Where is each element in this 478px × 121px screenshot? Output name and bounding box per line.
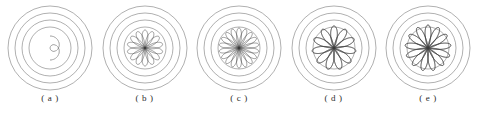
panel-c-canvas [193, 0, 285, 95]
panel-caption: ( b ) [136, 93, 154, 104]
panel-a: ( a ) [4, 0, 96, 121]
panel-b-canvas [99, 0, 191, 95]
rose-curve [50, 36, 59, 60]
panel-caption: ( a ) [41, 93, 59, 104]
rose-curve [405, 25, 451, 70]
panel-a-canvas [4, 0, 96, 95]
panel-c: ( c ) [193, 0, 285, 121]
rose-curve [219, 28, 258, 68]
rose-curve [127, 30, 162, 66]
panel-caption: ( d ) [325, 93, 343, 104]
panel-caption: ( e ) [419, 93, 437, 104]
figure-panel-row: ( a )( b )( c )( d )( e ) [0, 0, 478, 121]
panel-e-canvas [382, 0, 474, 95]
panel-d: ( d ) [288, 0, 380, 121]
panel-caption: ( c ) [230, 93, 248, 104]
panel-b: ( b ) [99, 0, 191, 121]
panel-e: ( e ) [382, 0, 474, 121]
panel-d-canvas [288, 0, 380, 95]
